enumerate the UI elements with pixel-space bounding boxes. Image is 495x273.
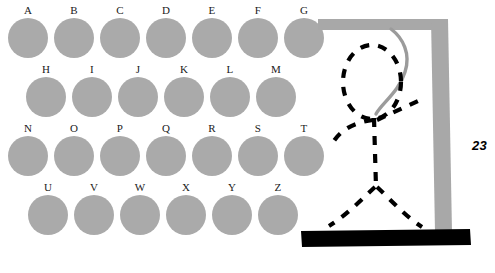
- letter-label-s: S: [255, 122, 261, 135]
- hangman-scene: 23: [295, 0, 495, 273]
- letter-disc-y[interactable]: [212, 195, 252, 235]
- letter-button-e[interactable]: E: [192, 4, 232, 58]
- hangman-drawing: [295, 0, 495, 273]
- letter-disc-k[interactable]: [164, 77, 204, 117]
- letter-disc-z[interactable]: [258, 195, 298, 235]
- letter-disc-s[interactable]: [238, 136, 278, 176]
- letter-label-m: M: [271, 63, 281, 76]
- figure-right-leg: [377, 187, 422, 227]
- letter-label-x: X: [182, 181, 190, 194]
- letter-button-z[interactable]: Z: [258, 181, 298, 235]
- letter-board: ABCDEFGHIJKLMNOPQRSTUVWXYZ: [0, 0, 300, 273]
- gallows-beam: [318, 19, 448, 30]
- figure-head: [343, 45, 401, 119]
- letter-label-j: J: [136, 63, 140, 76]
- figure-left-arm: [331, 120, 373, 146]
- letter-row-2: HIJKLM: [26, 63, 296, 117]
- letter-label-e: E: [209, 4, 216, 17]
- letter-label-a: A: [24, 4, 32, 17]
- letter-label-p: P: [117, 122, 123, 135]
- letter-disc-e[interactable]: [192, 18, 232, 58]
- letter-label-u: U: [44, 181, 52, 194]
- letter-disc-u[interactable]: [28, 195, 68, 235]
- letter-button-y[interactable]: Y: [212, 181, 252, 235]
- letter-button-u[interactable]: U: [28, 181, 68, 235]
- letter-disc-i[interactable]: [72, 77, 112, 117]
- gallows-post: [431, 19, 452, 232]
- figure-left-leg: [329, 187, 375, 226]
- letter-disc-d[interactable]: [146, 18, 186, 58]
- letter-button-q[interactable]: Q: [146, 122, 186, 176]
- letter-disc-h[interactable]: [26, 77, 66, 117]
- letter-disc-v[interactable]: [74, 195, 114, 235]
- letter-label-l: L: [227, 63, 234, 76]
- guess-count: 23: [472, 138, 487, 153]
- letter-disc-f[interactable]: [238, 18, 278, 58]
- letter-label-c: C: [116, 4, 124, 17]
- letter-disc-a[interactable]: [8, 18, 48, 58]
- figure-body: [374, 118, 376, 187]
- letter-label-k: K: [180, 63, 188, 76]
- letter-row-3: NOPQRST: [8, 122, 324, 176]
- letter-label-f: F: [255, 4, 261, 17]
- letter-button-n[interactable]: N: [8, 122, 48, 176]
- letter-label-v: V: [90, 181, 98, 194]
- letter-button-d[interactable]: D: [146, 4, 186, 58]
- hangman-game-screen: ABCDEFGHIJKLMNOPQRSTUVWXYZ 23: [0, 0, 495, 273]
- rope: [376, 29, 407, 114]
- letter-button-r[interactable]: R: [192, 122, 232, 176]
- letter-button-j[interactable]: J: [118, 63, 158, 117]
- letter-button-x[interactable]: X: [166, 181, 206, 235]
- letter-disc-x[interactable]: [166, 195, 206, 235]
- letter-button-i[interactable]: I: [72, 63, 112, 117]
- letter-button-k[interactable]: K: [164, 63, 204, 117]
- letter-label-n: N: [24, 122, 32, 135]
- letter-label-w: W: [135, 181, 146, 194]
- letter-button-l[interactable]: L: [210, 63, 250, 117]
- letter-disc-l[interactable]: [210, 77, 250, 117]
- letter-label-q: Q: [162, 122, 170, 135]
- letter-label-i: I: [90, 63, 94, 76]
- letter-button-m[interactable]: M: [256, 63, 296, 117]
- letter-button-c[interactable]: C: [100, 4, 140, 58]
- letter-button-s[interactable]: S: [238, 122, 278, 176]
- letter-button-p[interactable]: P: [100, 122, 140, 176]
- letter-label-b: B: [70, 4, 78, 17]
- letter-disc-q[interactable]: [146, 136, 186, 176]
- letter-button-w[interactable]: W: [120, 181, 160, 235]
- letter-button-b[interactable]: B: [54, 4, 94, 58]
- letter-button-v[interactable]: V: [74, 181, 114, 235]
- letter-button-a[interactable]: A: [8, 4, 48, 58]
- letter-label-y: Y: [228, 181, 236, 194]
- letter-row-1: ABCDEFG: [8, 4, 324, 58]
- letter-disc-n[interactable]: [8, 136, 48, 176]
- letter-disc-b[interactable]: [54, 18, 94, 58]
- letter-label-o: O: [70, 122, 78, 135]
- letter-disc-o[interactable]: [54, 136, 94, 176]
- gallows-base: [301, 229, 471, 247]
- letter-disc-m[interactable]: [256, 77, 296, 117]
- letter-label-r: R: [208, 122, 216, 135]
- letter-button-o[interactable]: O: [54, 122, 94, 176]
- letter-button-h[interactable]: H: [26, 63, 66, 117]
- letter-label-d: D: [162, 4, 170, 17]
- letter-disc-j[interactable]: [118, 77, 158, 117]
- letter-disc-w[interactable]: [120, 195, 160, 235]
- letter-label-z: Z: [275, 181, 282, 194]
- letter-row-4: UVWXYZ: [28, 181, 298, 235]
- letter-label-h: H: [42, 63, 50, 76]
- letter-disc-p[interactable]: [100, 136, 140, 176]
- letter-disc-r[interactable]: [192, 136, 232, 176]
- letter-button-f[interactable]: F: [238, 4, 278, 58]
- letter-disc-c[interactable]: [100, 18, 140, 58]
